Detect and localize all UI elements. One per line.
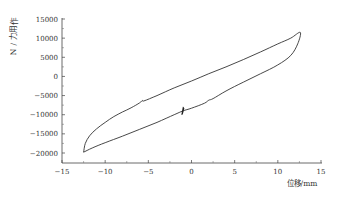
axes bbox=[62, 18, 322, 163]
y-axis-title: 作用力/N bbox=[9, 17, 19, 55]
y-axis-title-char: 作 bbox=[9, 17, 19, 25]
y-tick-label: 0 bbox=[54, 73, 58, 81]
y-ticks: 150001000050000−5000−10000−15000−20000 bbox=[30, 16, 65, 158]
x-tick-label: −5 bbox=[143, 168, 153, 176]
x-ticks: −15−10−5051015 bbox=[55, 160, 326, 176]
y-tick-label: −15000 bbox=[30, 130, 58, 138]
x-tick-label: 10 bbox=[273, 168, 282, 176]
x-tick-label: 0 bbox=[189, 168, 193, 176]
y-axis-title-char: N bbox=[10, 48, 19, 55]
x-tick-label: −15 bbox=[55, 168, 70, 176]
y-axis-title-char: 用 bbox=[10, 26, 19, 33]
hysteresis-loop-curve bbox=[84, 32, 301, 152]
y-tick-label: −5000 bbox=[34, 92, 58, 100]
hysteresis-chart: 150001000050000−5000−10000−15000−20000 −… bbox=[0, 0, 338, 204]
x-tick-label: 15 bbox=[317, 168, 326, 176]
x-axis-title: 位移/mm bbox=[287, 178, 318, 188]
y-tick-label: −20000 bbox=[30, 150, 58, 158]
y-axis-title-char: / bbox=[10, 43, 19, 46]
y-tick-label: −10000 bbox=[30, 111, 58, 119]
glitch-marker bbox=[182, 107, 184, 115]
y-axis-title-char: 力 bbox=[9, 33, 19, 40]
y-tick-label: 5000 bbox=[40, 54, 58, 62]
x-tick-label: 5 bbox=[232, 168, 236, 176]
y-tick-label: 15000 bbox=[36, 16, 58, 24]
x-tick-label: −10 bbox=[98, 168, 113, 176]
y-tick-label: 10000 bbox=[36, 35, 58, 43]
